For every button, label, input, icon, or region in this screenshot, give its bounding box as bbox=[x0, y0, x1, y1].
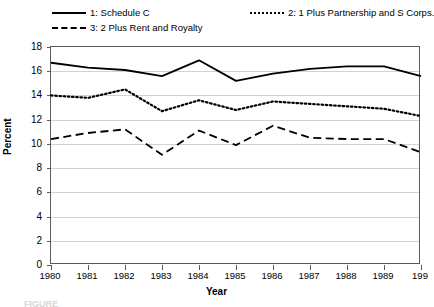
x-tick-label: 1988 bbox=[335, 270, 356, 281]
x-tick-label: 199 bbox=[412, 270, 428, 281]
legend-item-rent-royalty: 3: 2 Plus Rent and Royalty bbox=[52, 22, 202, 33]
x-tick-label: 1984 bbox=[187, 270, 208, 281]
legend-swatch-solid-line-icon bbox=[52, 8, 86, 17]
y-tick-label: 6 bbox=[2, 186, 42, 197]
series-lines bbox=[51, 47, 421, 265]
figure-caption: FIGURE bbox=[24, 299, 58, 307]
series-line-3 bbox=[51, 126, 421, 155]
y-tick-label: 16 bbox=[2, 65, 42, 76]
y-tick-label: 8 bbox=[2, 162, 42, 173]
x-tick-label: 1980 bbox=[39, 270, 60, 281]
legend-item-partnership-s-corps: 2: 1 Plus Partnership and S Corps. bbox=[250, 7, 434, 18]
y-tick-label: 0 bbox=[2, 259, 42, 270]
legend-swatch-dashed-line-icon bbox=[52, 23, 86, 32]
x-tick-label: 1987 bbox=[298, 270, 319, 281]
x-tick-label: 1989 bbox=[372, 270, 393, 281]
y-tick-label: 4 bbox=[2, 210, 42, 221]
chart-legend: 1: Schedule C 2: 1 Plus Partnership and … bbox=[0, 6, 433, 40]
series-line-2 bbox=[51, 89, 421, 116]
legend-swatch-dotted-line-icon bbox=[250, 8, 284, 17]
x-tick-label: 1981 bbox=[76, 270, 97, 281]
plot-area bbox=[50, 46, 420, 264]
y-tick-label: 12 bbox=[2, 113, 42, 124]
y-tick-label: 10 bbox=[2, 137, 42, 148]
x-tick-label: 1982 bbox=[113, 270, 134, 281]
legend-label-3: 3: 2 Plus Rent and Royalty bbox=[90, 22, 202, 33]
y-tick-label: 14 bbox=[2, 89, 42, 100]
x-axis-title: Year bbox=[0, 286, 433, 297]
x-tick-label: 1985 bbox=[224, 270, 245, 281]
y-tick-label: 2 bbox=[2, 234, 42, 245]
x-tick-label: 1983 bbox=[150, 270, 171, 281]
legend-item-schedule-c: 1: Schedule C bbox=[52, 7, 150, 18]
x-tick-label: 1986 bbox=[261, 270, 282, 281]
series-line-1 bbox=[51, 60, 421, 81]
y-tick-label: 18 bbox=[2, 41, 42, 52]
legend-label-2: 2: 1 Plus Partnership and S Corps. bbox=[288, 7, 434, 18]
legend-label-1: 1: Schedule C bbox=[90, 7, 150, 18]
